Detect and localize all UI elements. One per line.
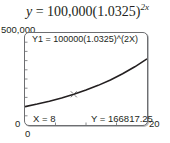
x-min-label: 0 — [25, 128, 30, 139]
y-axis-ticks — [25, 42, 28, 116]
plot-area — [25, 33, 147, 125]
calculator-graph-screen: Y1 = 100000(1.0325)^(2X) X = 8 Y = 16681… — [24, 32, 148, 126]
y-min-label: 0 — [15, 118, 20, 129]
equation-rhs: = 100,000(1.0325) — [32, 4, 140, 19]
y-value-readout: Y = 166817.25 — [91, 113, 153, 124]
x-value-readout: X = 8 — [33, 113, 55, 124]
equation-title: y = 100,000(1.0325)2x — [26, 4, 149, 20]
function-readout: Y1 = 100000(1.0325)^(2X) — [32, 34, 138, 44]
equation-exponent: 2x — [140, 2, 149, 12]
function-curve — [25, 59, 147, 107]
